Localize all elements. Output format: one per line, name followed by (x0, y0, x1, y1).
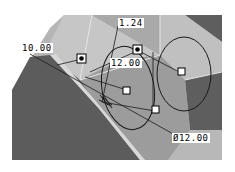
handle-filled-1[interactable] (77, 54, 86, 63)
dimension-10[interactable]: 10.00 (21, 43, 53, 53)
handle-hollow-3[interactable] (152, 106, 159, 113)
model-face-right-bottom (185, 72, 222, 130)
handle-hollow-1[interactable] (178, 68, 185, 75)
cad-viewport[interactable]: 10.00 1.24 12.00 Ø12.00 (0, 0, 235, 172)
dimension-12-diameter[interactable]: Ø12.00 (172, 133, 210, 143)
dimension-1-24[interactable]: 1.24 (118, 18, 144, 28)
dimension-12-radius[interactable]: 12.00 (110, 58, 142, 68)
handle-filled-2[interactable] (133, 45, 142, 54)
handle-hollow-2[interactable] (123, 87, 130, 94)
